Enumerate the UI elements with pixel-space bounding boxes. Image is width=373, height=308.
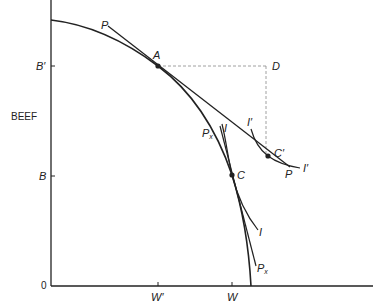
curve-label-i-bottom: I [259, 227, 262, 238]
point-label-d: D [272, 61, 280, 72]
line-label-px-bottom: Px [257, 263, 268, 275]
point-a [155, 63, 160, 68]
line-label-px-top: Px [202, 128, 213, 140]
tick-label-b: B [39, 171, 46, 182]
point-label-c-prime: C′ [274, 148, 284, 159]
price-line-p [108, 26, 290, 167]
point-label-c: C [237, 170, 245, 181]
point-label-a: A [153, 50, 160, 61]
point-c-prime [265, 153, 270, 158]
ppf-diagram [0, 0, 373, 308]
point-c [229, 172, 234, 177]
line-label-p-bottom: P [285, 169, 292, 180]
curve-label-i-top: I [224, 123, 227, 134]
px-top-sub: x [209, 133, 213, 140]
tick-label-b-prime: B′ [36, 61, 45, 72]
tick-label-w: W [227, 292, 237, 303]
curve-label-i-prime-top: I′ [247, 117, 252, 128]
origin-label: 0 [41, 281, 47, 291]
price-line-px [220, 126, 256, 266]
line-label-p-top: P [101, 20, 108, 31]
curve-label-i-prime-bottom: I′ [303, 163, 308, 174]
tick-label-w-prime: W′ [151, 292, 163, 303]
px-bottom-sub: x [264, 268, 268, 275]
y-axis-label: BEEF [11, 112, 37, 122]
